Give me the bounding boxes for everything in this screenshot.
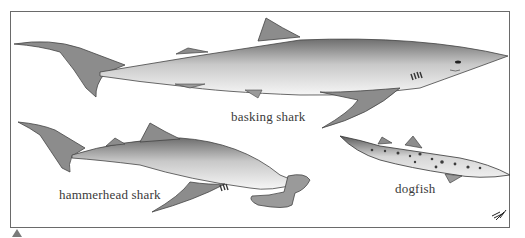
triangle-up-icon <box>12 229 22 237</box>
label-basking-shark: basking shark <box>231 109 305 125</box>
dogfish <box>340 136 510 183</box>
label-dogfish: dogfish <box>395 181 435 197</box>
artist-signature <box>492 210 506 220</box>
label-hammerhead-shark: hammerhead shark <box>59 187 161 203</box>
